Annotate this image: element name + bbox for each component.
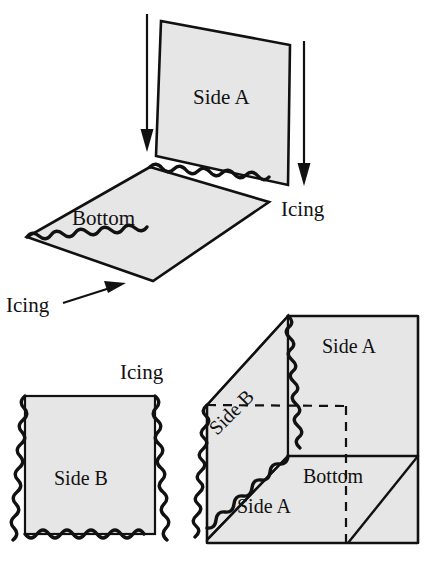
label-box-bottom: Bottom <box>303 466 363 486</box>
assembly-arrow-left <box>141 14 154 152</box>
label-side-b-flat: Side B <box>54 468 108 488</box>
panel-side-b-flat <box>25 396 155 534</box>
panel-bottom-slab <box>27 167 269 281</box>
label-icing-left: Icing <box>6 295 49 316</box>
label-side-a-upright: Side A <box>193 87 250 108</box>
label-icing-right: Icing <box>281 199 324 220</box>
assembly-arrow-right <box>298 41 311 186</box>
icing-pointer-arrow <box>63 281 126 303</box>
label-bottom-slab: Bottom <box>72 208 135 229</box>
label-icing-mid: Icing <box>120 362 163 383</box>
label-box-side-a-right: Side A <box>322 336 376 356</box>
cake-assembly-figure: Side A Bottom Icing Icing Icing Side B S… <box>0 0 428 562</box>
label-box-side-a-front: Side A <box>237 496 291 516</box>
